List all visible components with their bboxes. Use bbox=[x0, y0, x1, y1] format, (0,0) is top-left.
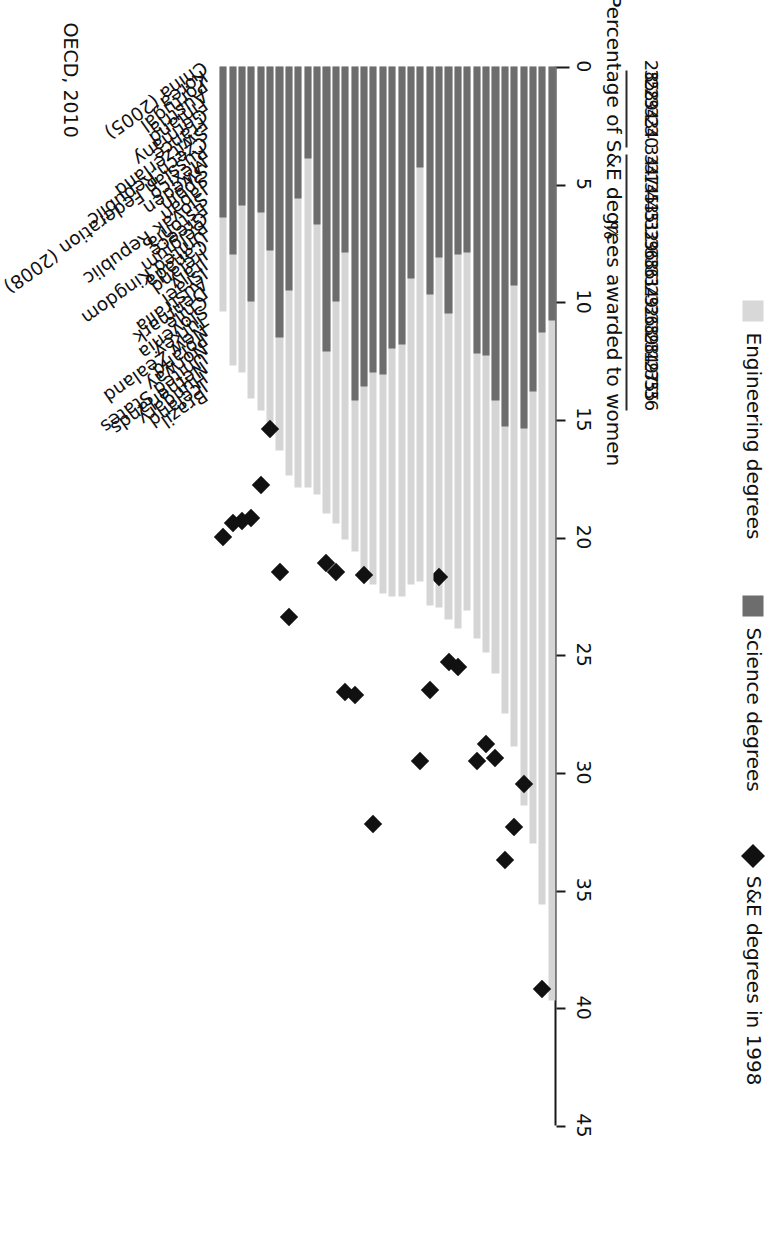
axis-tick-label: 30 bbox=[572, 760, 594, 785]
axis-tick bbox=[556, 1007, 565, 1009]
axis-tick bbox=[556, 66, 569, 68]
rotated-page-wrap: Engineering degrees Science degrees S&E … bbox=[0, 0, 771, 1233]
axis-tick-label: 10 bbox=[572, 289, 594, 314]
bar-segment-science bbox=[379, 66, 386, 374]
legend-item-se1998: S&E degrees in 1998 bbox=[741, 847, 765, 1085]
bar-row bbox=[388, 66, 395, 1125]
bar-segment-science bbox=[520, 66, 527, 428]
bar-segment-science bbox=[435, 66, 442, 257]
bar-row bbox=[529, 66, 536, 1125]
bar-row bbox=[398, 66, 405, 1125]
axis-tick bbox=[556, 419, 565, 421]
bar-segment-science bbox=[454, 66, 461, 254]
bar-row bbox=[285, 66, 292, 1125]
bar-row bbox=[322, 66, 329, 1125]
bar-row bbox=[426, 66, 433, 1125]
bar-row bbox=[351, 66, 358, 1125]
bar-row bbox=[332, 66, 339, 1125]
bar-row bbox=[416, 66, 423, 1125]
bar-segment-science bbox=[351, 66, 358, 400]
bar-row bbox=[219, 66, 226, 1125]
bar-segment-science bbox=[426, 66, 433, 294]
legend-item-engineering: Engineering degrees bbox=[741, 300, 765, 539]
bar-segment-science bbox=[473, 66, 480, 353]
axis-tick bbox=[556, 890, 565, 892]
bar-row bbox=[510, 66, 517, 1125]
category-axis-labels: China (2005)KoreaPortugalAustriaFinlandG… bbox=[11, 66, 211, 1125]
chart-legend: Engineering degrees Science degrees S&E … bbox=[741, 300, 765, 1085]
bar-segment-science bbox=[275, 66, 282, 337]
axis-tick bbox=[556, 184, 565, 186]
axis-tick-label: 40 bbox=[572, 995, 594, 1020]
bar-segment-science bbox=[444, 66, 451, 313]
bar-segment-science bbox=[463, 66, 470, 252]
bar-row bbox=[360, 66, 367, 1125]
bar-row bbox=[482, 66, 489, 1125]
bar-row bbox=[501, 66, 508, 1125]
bar-row bbox=[463, 66, 470, 1125]
bar-segment-science bbox=[238, 66, 245, 205]
bar-segment-science bbox=[398, 66, 405, 344]
bar-row bbox=[257, 66, 264, 1125]
bar-segment-science bbox=[388, 66, 395, 348]
bar-row bbox=[520, 66, 527, 1125]
se1998-value: 36 bbox=[640, 388, 661, 411]
axis-tick-label: 35 bbox=[572, 877, 594, 902]
bar-segment-science bbox=[229, 66, 236, 254]
bar-row bbox=[538, 66, 545, 1125]
axis-tick bbox=[556, 654, 565, 656]
axis-tick bbox=[556, 1125, 565, 1127]
bar-row bbox=[247, 66, 254, 1125]
bar-row bbox=[444, 66, 451, 1125]
bar-segment-science bbox=[257, 66, 264, 212]
bar-segment-science bbox=[332, 66, 339, 301]
legend-label-se1998: S&E degrees in 1998 bbox=[741, 875, 765, 1085]
bar-row bbox=[304, 66, 311, 1125]
bar-segment-science bbox=[266, 66, 273, 250]
legend-label-science: Science degrees bbox=[741, 627, 765, 791]
bar-row bbox=[491, 66, 498, 1125]
axis-title: Percentage of S&E degrees awarded to wom… bbox=[601, 0, 625, 466]
bar-row bbox=[229, 66, 236, 1125]
bar-segment-science bbox=[294, 66, 301, 198]
diamond-marker-icon bbox=[741, 844, 765, 868]
plot-area: 051015202530354045 bbox=[218, 66, 556, 1125]
bar-row bbox=[454, 66, 461, 1125]
axis-tick-label: 45 bbox=[572, 1113, 594, 1138]
chart-figure: Engineering degrees Science degrees S&E … bbox=[0, 0, 771, 1233]
bar-segment-science bbox=[322, 66, 329, 351]
bar-segment-science bbox=[548, 66, 555, 320]
bar-segment-science bbox=[285, 66, 292, 290]
engineering-swatch-icon bbox=[743, 300, 764, 321]
bar-segment-science bbox=[538, 66, 545, 332]
bar-segment-science bbox=[341, 66, 348, 252]
bar-segment-science bbox=[369, 66, 376, 372]
axis-tick-label: 5 bbox=[572, 178, 594, 190]
legend-item-science: Science degrees bbox=[741, 595, 765, 791]
bar-row bbox=[238, 66, 245, 1125]
bar-segment-science bbox=[501, 66, 508, 426]
bar-segment-science bbox=[482, 66, 489, 355]
axis-tick-label: 15 bbox=[572, 407, 594, 432]
bar-segment-science bbox=[247, 66, 254, 301]
bar-segment-science bbox=[407, 66, 414, 278]
se1998-value-column: 2835282934332430343437143543453132393638… bbox=[631, 66, 661, 1125]
axis-tick bbox=[556, 537, 565, 539]
science-swatch-icon bbox=[743, 595, 764, 616]
bar-segment-science bbox=[416, 66, 423, 167]
bar-segment-science bbox=[529, 66, 536, 391]
axis-tick bbox=[556, 301, 565, 303]
bar-segment-science bbox=[491, 66, 498, 400]
bar-row bbox=[435, 66, 442, 1125]
bar-segment-science bbox=[219, 66, 226, 217]
bar-row bbox=[294, 66, 301, 1125]
bar-row bbox=[369, 66, 376, 1125]
bar-row bbox=[266, 66, 273, 1125]
bar-row bbox=[313, 66, 320, 1125]
axis-tick-label: 20 bbox=[572, 524, 594, 549]
axis-tick-label: 0 bbox=[572, 60, 594, 72]
bar-segment-science bbox=[360, 66, 367, 386]
axis-tick-label: 25 bbox=[572, 642, 594, 667]
bar-row bbox=[407, 66, 414, 1125]
bar-row bbox=[548, 66, 555, 1125]
